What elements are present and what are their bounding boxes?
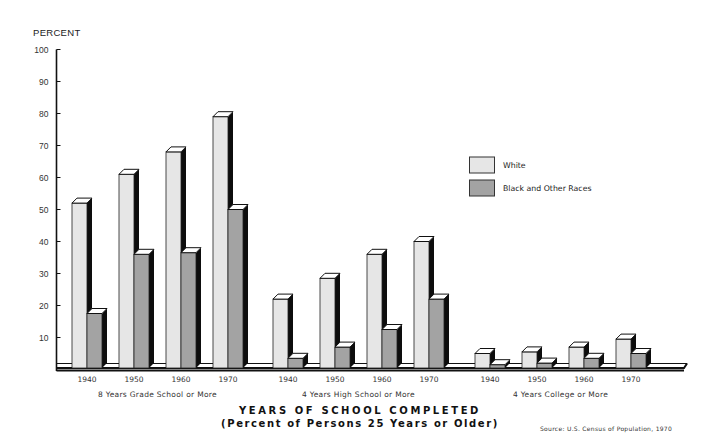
- group-label: 4 Years College or More: [513, 390, 608, 399]
- bar-front: [475, 354, 490, 369]
- bar-front: [320, 278, 335, 368]
- source-note: Source: U.S. Census of Population, 1970: [540, 425, 672, 433]
- legend-label: White: [503, 161, 526, 170]
- bar-black-other: [335, 342, 355, 368]
- bar-front: [382, 330, 397, 369]
- bar-front: [335, 347, 350, 368]
- y-tick-label: 80: [39, 109, 49, 119]
- bar-black-other: [429, 294, 449, 368]
- bar-front: [367, 254, 382, 368]
- year-label: 1970: [419, 375, 438, 384]
- legend-swatch-white: [470, 157, 495, 173]
- bar-front: [414, 242, 429, 369]
- year-label: 1940: [480, 375, 499, 384]
- bar-side: [444, 294, 449, 368]
- bar-chart: PERCENT 102030405060708090100 1940195019…: [0, 0, 721, 442]
- year-label: 1960: [171, 375, 190, 384]
- chart-title: YEARS OF SCHOOL COMPLETED: [238, 405, 481, 416]
- year-label: 1940: [278, 375, 297, 384]
- y-tick-label: 60: [39, 173, 49, 183]
- bar-front: [569, 347, 584, 368]
- bar-front: [631, 354, 646, 369]
- year-label: 1940: [77, 375, 96, 384]
- bar-front: [429, 299, 444, 368]
- bar-front: [72, 203, 87, 368]
- year-label: 1950: [527, 375, 546, 384]
- y-tick-label: 20: [39, 301, 49, 311]
- year-label: 1950: [325, 375, 344, 384]
- bar-side: [397, 325, 402, 369]
- group-label: 4 Years High School or More: [302, 390, 415, 399]
- bar-black-other: [584, 353, 604, 368]
- bar-front: [87, 314, 102, 369]
- bar-front: [228, 210, 243, 369]
- bar-front: [522, 352, 537, 368]
- bar-front: [134, 254, 149, 368]
- x-axis-labels: 19401950196019708 Years Grade School or …: [77, 375, 640, 399]
- y-tick-label: 40: [39, 237, 49, 247]
- year-label: 1960: [574, 375, 593, 384]
- bar-side: [243, 205, 248, 369]
- chart-subtitle: (Percent of Persons 25 Years or Older): [221, 418, 499, 429]
- bar-black-other: [382, 325, 402, 369]
- bar-black-other: [181, 248, 201, 368]
- year-label: 1970: [621, 375, 640, 384]
- bar-group: [72, 112, 248, 368]
- y-tick-label: 70: [39, 141, 49, 151]
- y-tick-label: 10: [39, 333, 49, 343]
- bar-side: [102, 309, 107, 369]
- legend: WhiteBlack and Other Races: [470, 157, 592, 196]
- bar-black-other: [134, 249, 154, 368]
- bar-front: [166, 152, 181, 368]
- bar-front: [584, 358, 599, 368]
- bar-black-other: [228, 205, 248, 369]
- bar-black-other: [631, 349, 651, 369]
- legend-label: Black and Other Races: [503, 184, 592, 193]
- y-tick-label: 50: [39, 205, 49, 215]
- bar-front: [288, 358, 303, 368]
- group-label: 8 Years Grade School or More: [98, 390, 217, 399]
- bar-front: [213, 117, 228, 368]
- bar-groups: [72, 112, 651, 368]
- y-axis-label: PERCENT: [33, 27, 81, 38]
- bar-group: [475, 334, 651, 368]
- y-tick-label: 100: [34, 45, 48, 55]
- bar-front: [616, 339, 631, 368]
- bar-front: [537, 363, 552, 368]
- bar-front: [119, 174, 134, 368]
- bar-black-other: [87, 309, 107, 369]
- bar-side: [196, 248, 201, 368]
- year-label: 1950: [124, 375, 143, 384]
- bar-black-other: [288, 353, 308, 368]
- bar-front: [181, 253, 196, 368]
- bar-front: [273, 299, 288, 368]
- y-tick-label: 30: [39, 269, 49, 279]
- legend-swatch-black-other: [470, 180, 495, 196]
- y-tick-label: 90: [39, 77, 49, 87]
- bar-side: [149, 249, 154, 368]
- year-label: 1970: [218, 375, 237, 384]
- bar-group: [273, 237, 449, 369]
- year-label: 1960: [372, 375, 391, 384]
